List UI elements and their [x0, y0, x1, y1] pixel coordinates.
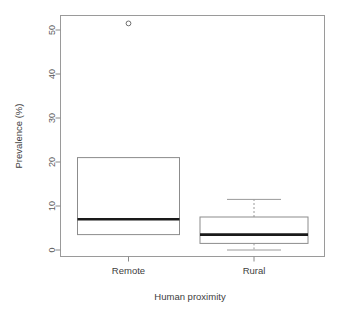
y-tick-label: 40 [47, 69, 57, 79]
outlier-point [126, 21, 131, 26]
y-tick-label: 50 [47, 25, 57, 35]
box-remote [78, 158, 180, 235]
y-tick-label: 0 [47, 247, 57, 252]
boxplot-figure: 01020304050 Prevalence (%) RemoteRural H… [0, 0, 339, 319]
x-axis-category-labels: RemoteRural [112, 265, 265, 276]
box-rural [200, 217, 308, 243]
plot-canvas: 01020304050 Prevalence (%) RemoteRural H… [0, 0, 339, 319]
y-axis-title: Prevalence (%) [13, 104, 24, 169]
y-axis-tick-labels: 01020304050 [47, 25, 57, 253]
x-category-label: Remote [112, 265, 145, 276]
y-axis-ticks [56, 30, 61, 250]
box-plot-series [78, 21, 309, 250]
x-category-label: Rural [243, 265, 266, 276]
y-tick-label: 10 [47, 201, 57, 211]
y-tick-label: 30 [47, 113, 57, 123]
x-axis-title: Human proximity [154, 291, 226, 302]
x-axis-ticks [129, 257, 255, 262]
y-tick-label: 20 [47, 157, 57, 167]
